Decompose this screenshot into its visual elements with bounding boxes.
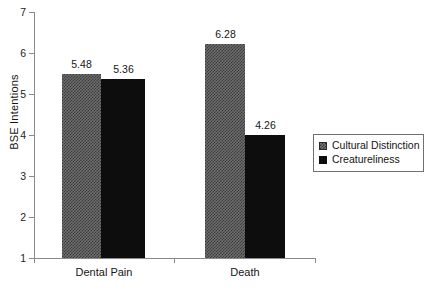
y-axis-title: BSE Intentions [8, 52, 20, 172]
bar-chart: BSE Intentions 7 6 5 4 3 2 1 5.48 5.36 D… [0, 0, 427, 299]
y-tick-label-5: 5 [2, 89, 26, 99]
y-tick-label-2: 2 [2, 212, 26, 222]
y-axis-line [34, 12, 35, 259]
bar-death-creatureliness [245, 135, 285, 258]
bar-dental-pain-cultural-distinction [62, 74, 101, 258]
legend-item-creatureliness: Creatureliness [319, 153, 418, 166]
y-tick-label-3: 3 [2, 171, 26, 181]
bar-dental-pain-creatureliness [101, 79, 145, 258]
x-tick-end [315, 258, 316, 263]
y-tick-label-7: 7 [2, 7, 26, 17]
x-tick-mid [174, 258, 175, 263]
legend-label-creatureliness: Creatureliness [332, 154, 400, 165]
x-category-label-death: Death [205, 266, 285, 278]
legend-label-cultural-distinction: Cultural Distinction [332, 140, 420, 151]
legend-item-cultural-distinction: Cultural Distinction [319, 139, 418, 152]
y-tick-label-6: 6 [2, 48, 26, 58]
legend-swatch-checkered-icon [319, 142, 327, 150]
bar-value-dental-pain-creatureliness: 5.36 [94, 63, 153, 75]
x-axis-line [34, 258, 316, 259]
bar-value-death-creatureliness: 4.26 [236, 119, 295, 131]
y-tick-label-1: 1 [2, 253, 26, 263]
legend-swatch-solid-icon [319, 156, 327, 164]
y-tick-label-4: 4 [2, 130, 26, 140]
bar-death-cultural-distinction [205, 44, 245, 258]
x-category-label-dental-pain: Dental Pain [44, 266, 164, 278]
bar-value-death-cultural-distinction: 6.28 [196, 28, 255, 40]
chart-legend: Cultural Distinction Creatureliness [313, 134, 424, 172]
x-tick-start [34, 258, 35, 263]
